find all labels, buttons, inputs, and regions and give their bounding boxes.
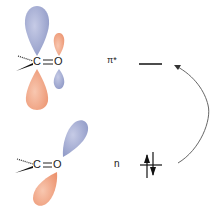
n-label: n (114, 158, 120, 169)
oxygen-lower-lobe (54, 69, 65, 89)
n-level (140, 152, 162, 178)
electron-up-arrow (144, 154, 150, 163)
top-oxygen-label: O (54, 55, 63, 67)
oxygen-lone-pair-blue-lobe (63, 120, 88, 157)
pi-star-label: π* (107, 55, 117, 65)
oxygen-upper-lobe (54, 33, 65, 56)
diagram-canvas (0, 0, 224, 215)
carbon-upper-lobe (25, 6, 49, 56)
oxygen-lone-pair-orange-lobe (33, 172, 57, 206)
carbon-lower-lobe (26, 69, 48, 110)
bottom-oxygen-label: O (53, 158, 62, 170)
electron-down-arrow (150, 167, 156, 176)
transition-arrow (174, 65, 209, 163)
top-carbon-label: C (33, 55, 41, 67)
bottom-carbon-label: C (33, 158, 41, 170)
